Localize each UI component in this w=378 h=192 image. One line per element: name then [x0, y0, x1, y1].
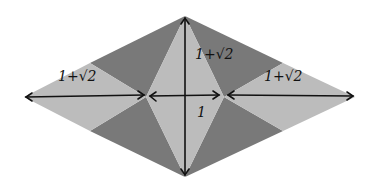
label-center-segment: 1 — [197, 104, 206, 120]
label-right-segment: 1+√2 — [264, 68, 302, 84]
label-top-segment: 1+√2 — [195, 46, 233, 62]
rhombus-diagram: 1+√2 1+√2 1+√2 1 — [0, 0, 378, 192]
diagram-canvas — [0, 0, 378, 192]
label-left-segment: 1+√2 — [58, 68, 96, 84]
right-segment-arrow — [228, 95, 353, 96]
